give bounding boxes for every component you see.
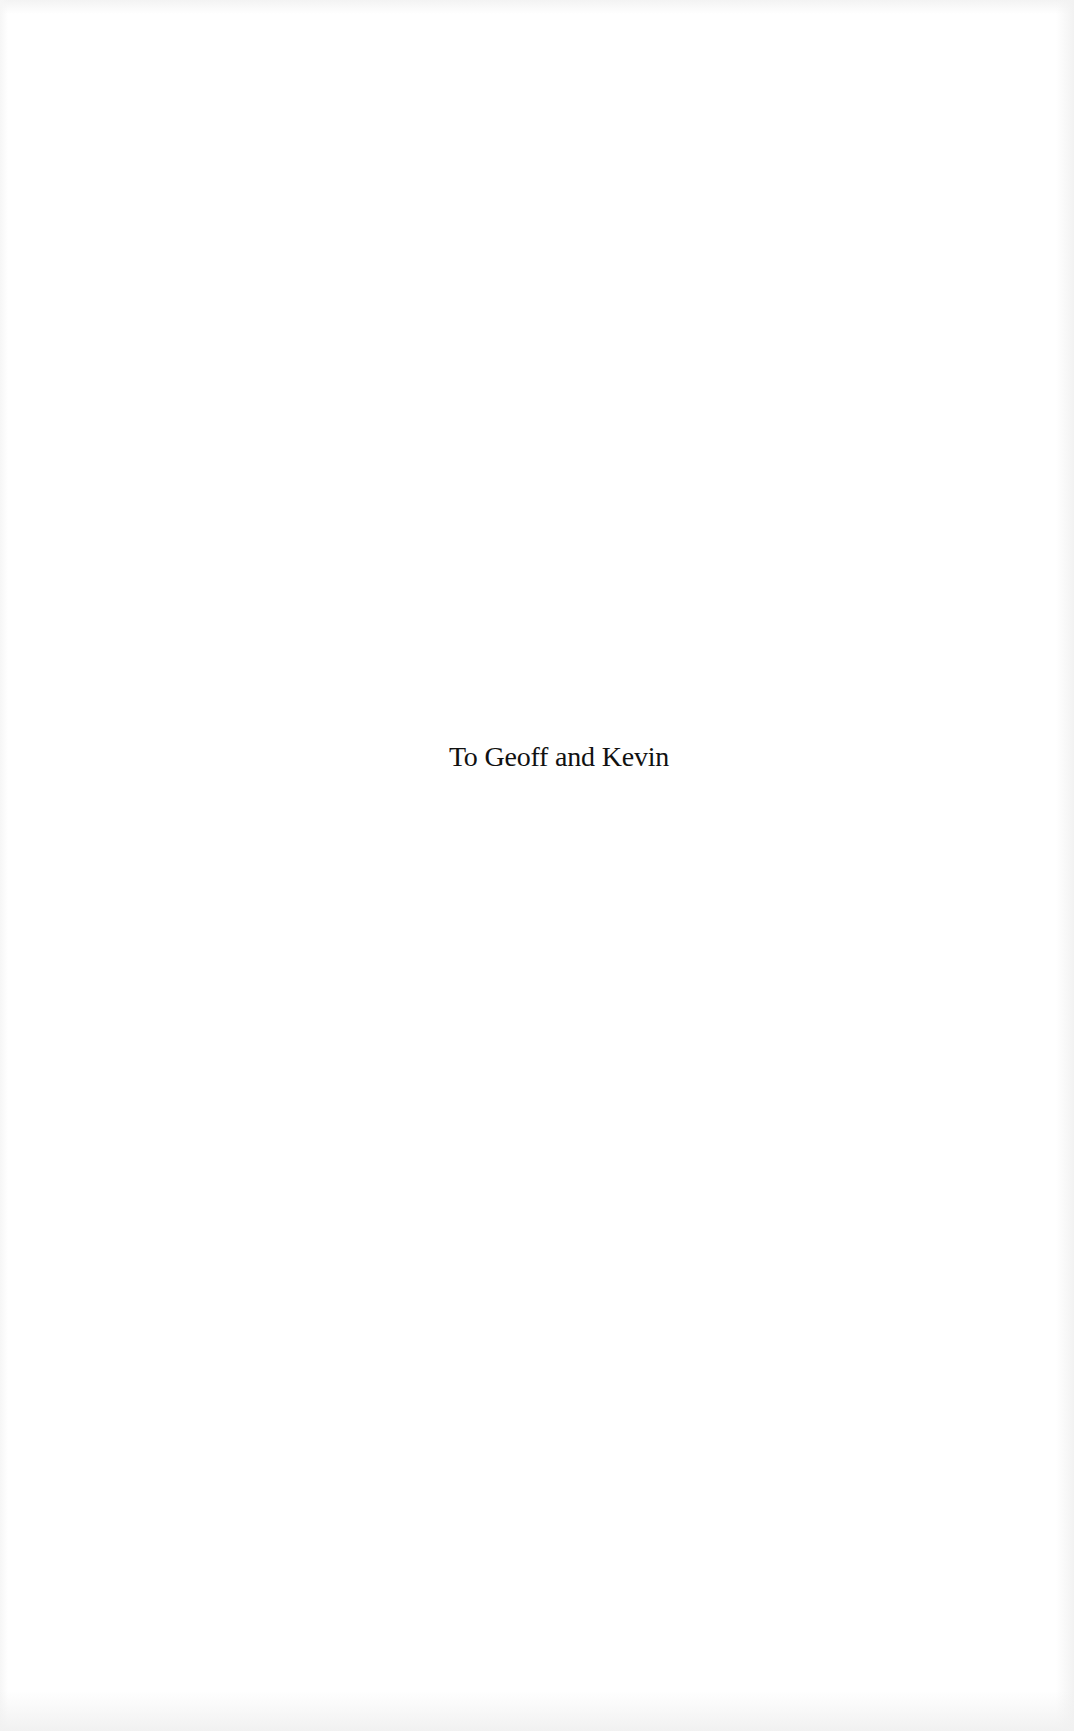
page-right-edge-shadow: [1056, 0, 1074, 1731]
page-top-edge-shadow: [0, 0, 1074, 14]
book-page: To Geoff and Kevin: [0, 0, 1074, 1731]
page-bottom-edge-shadow: [0, 1691, 1074, 1731]
dedication-text: To Geoff and Kevin: [0, 737, 1074, 777]
page-left-edge-shadow: [0, 0, 8, 1731]
